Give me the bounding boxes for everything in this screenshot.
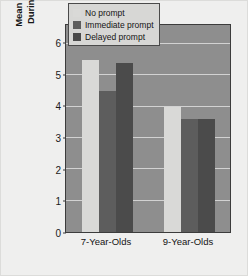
y-axis-title: Mean Number of Errors During Recall of L… bbox=[2, 0, 46, 68]
y-tick-label: 0 bbox=[55, 228, 61, 239]
y-tick-label: 5 bbox=[55, 69, 61, 80]
bar bbox=[181, 119, 198, 232]
plot-area bbox=[65, 24, 231, 233]
bar bbox=[164, 107, 181, 232]
y-tick-label: 2 bbox=[55, 164, 61, 175]
y-tick-label: 1 bbox=[55, 196, 61, 207]
legend: No promptImmediate promptDelayed prompt bbox=[68, 3, 160, 46]
bar-chart-figure: Mean Number of Errors During Recall of L… bbox=[0, 0, 248, 276]
legend-label: Immediate prompt bbox=[85, 20, 154, 30]
x-tick-label: 9-Year-Olds bbox=[163, 236, 213, 247]
y-tick-label: 4 bbox=[55, 101, 61, 112]
legend-label: Delayed prompt bbox=[85, 32, 145, 42]
legend-swatch-icon bbox=[73, 9, 81, 17]
bar bbox=[99, 91, 116, 232]
legend-item: No prompt bbox=[73, 7, 154, 18]
y-axis-ticks: 0123456 bbox=[42, 24, 64, 233]
bar bbox=[116, 63, 133, 232]
y-axis-title-line-2: During Recall of List 1 bbox=[25, 0, 36, 24]
legend-swatch-icon bbox=[73, 33, 81, 41]
y-tick-label: 3 bbox=[55, 133, 61, 144]
x-axis-ticks: 7-Year-Olds9-Year-Olds bbox=[65, 236, 231, 254]
legend-item: Delayed prompt bbox=[73, 31, 154, 42]
bar bbox=[198, 119, 215, 232]
legend-label: No prompt bbox=[85, 8, 125, 18]
legend-item: Immediate prompt bbox=[73, 19, 154, 30]
y-tick-label: 6 bbox=[55, 38, 61, 49]
bar bbox=[82, 60, 99, 233]
x-tick-label: 7-Year-Olds bbox=[81, 236, 131, 247]
legend-swatch-icon bbox=[73, 21, 81, 29]
y-axis-title-line-1: Mean Number of Errors bbox=[13, 0, 24, 27]
